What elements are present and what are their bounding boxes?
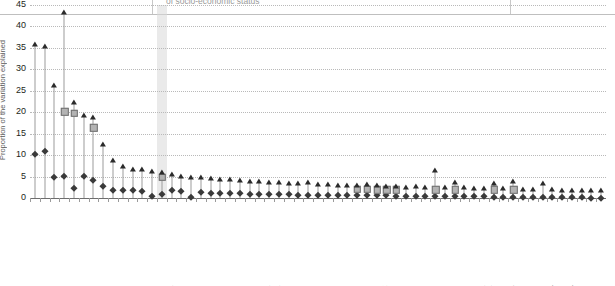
gridline — [30, 69, 606, 71]
marker-triangle — [432, 168, 438, 173]
marker-square — [510, 186, 517, 193]
gridline — [30, 112, 606, 114]
gridline — [30, 5, 606, 7]
y-tick-label: 25 — [0, 85, 26, 95]
y-tick-label: 0 — [0, 192, 26, 202]
y-tick-label: 20 — [0, 106, 26, 116]
marker-triangle — [461, 185, 467, 190]
marker-triangle — [403, 184, 409, 189]
stem-line — [132, 171, 133, 198]
stem-line — [44, 48, 45, 198]
marker-triangle — [217, 176, 223, 181]
marker-triangle — [539, 181, 545, 186]
marker-diamond — [71, 185, 77, 191]
marker-triangle — [598, 188, 604, 193]
marker-triangle — [354, 182, 360, 187]
y-tick-label: 15 — [0, 128, 26, 138]
marker-triangle — [237, 177, 243, 182]
gridline — [30, 91, 606, 93]
marker-triangle — [71, 99, 77, 104]
marker-triangle — [120, 163, 126, 168]
marker-triangle — [295, 181, 301, 186]
marker-diamond — [237, 190, 243, 196]
marker-triangle — [510, 179, 516, 184]
marker-diamond — [178, 188, 184, 194]
gridline — [30, 155, 606, 157]
marker-diamond — [129, 187, 135, 193]
marker-diamond — [198, 189, 204, 195]
marker-triangle — [286, 180, 292, 185]
marker-triangle — [364, 182, 370, 187]
stem-line — [34, 46, 35, 198]
marker-triangle — [247, 178, 253, 183]
marker-triangle — [334, 182, 340, 187]
marker-triangle — [578, 188, 584, 193]
gridline — [30, 26, 606, 28]
marker-triangle — [315, 181, 321, 186]
y-tick-label: 30 — [0, 63, 26, 73]
marker-triangle — [208, 176, 214, 181]
y-tick-label: 5 — [0, 171, 26, 181]
marker-diamond — [51, 173, 57, 179]
marker-triangle — [51, 83, 57, 88]
marker-triangle — [32, 41, 38, 46]
marker-diamond — [246, 190, 252, 196]
marker-triangle — [159, 170, 165, 175]
marker-diamond — [285, 191, 291, 197]
marker-triangle — [500, 186, 506, 191]
marker-triangle — [139, 167, 145, 172]
marker-triangle — [520, 187, 526, 192]
marker-triangle — [61, 9, 67, 14]
gridline — [30, 134, 606, 136]
marker-square — [432, 186, 439, 193]
y-tick-label: 40 — [0, 20, 26, 30]
marker-triangle — [110, 158, 116, 163]
stem-line — [103, 146, 104, 198]
marker-triangle — [393, 184, 399, 189]
y-tick-label: 35 — [0, 42, 26, 52]
marker-diamond — [207, 190, 213, 196]
marker-triangle — [442, 185, 448, 190]
marker-triangle — [481, 186, 487, 191]
stem-line — [54, 87, 55, 198]
marker-triangle — [227, 177, 233, 182]
marker-triangle — [149, 169, 155, 174]
marker-triangle — [100, 141, 106, 146]
marker-square — [451, 186, 458, 193]
marker-diamond — [256, 190, 262, 196]
marker-triangle — [90, 114, 96, 119]
marker-triangle — [373, 183, 379, 188]
marker-triangle — [42, 43, 48, 48]
marker-triangle — [559, 187, 565, 192]
marker-triangle — [383, 183, 389, 188]
marker-triangle — [178, 174, 184, 179]
marker-diamond — [41, 148, 47, 154]
marker-diamond — [100, 183, 106, 189]
marker-triangle — [530, 187, 536, 192]
marker-triangle — [471, 185, 477, 190]
marker-diamond — [168, 187, 174, 193]
plot-area: 051015202530354045 — [30, 5, 606, 198]
marker-diamond — [276, 191, 282, 197]
x-axis-labels: BelgiumAustriaNetherlandsLuxembourgLiech… — [30, 200, 606, 286]
marker-triangle — [413, 184, 419, 189]
marker-triangle — [569, 187, 575, 192]
marker-diamond — [139, 187, 145, 193]
marker-square — [491, 186, 498, 193]
y-axis-title: Proportion of the variation explained — [0, 40, 7, 160]
marker-triangle — [549, 187, 555, 192]
marker-diamond — [266, 191, 272, 197]
marker-triangle — [422, 185, 428, 190]
marker-triangle — [266, 179, 272, 184]
marker-diamond — [159, 190, 165, 196]
marker-triangle — [81, 113, 87, 118]
marker-triangle — [129, 167, 135, 172]
marker-diamond — [110, 187, 116, 193]
marker-triangle — [325, 182, 331, 187]
gridline — [30, 177, 606, 179]
y-tick-label: 45 — [0, 0, 26, 9]
marker-triangle — [452, 180, 458, 185]
marker-triangle — [188, 175, 194, 180]
marker-square — [61, 108, 68, 115]
marker-triangle — [198, 174, 204, 179]
